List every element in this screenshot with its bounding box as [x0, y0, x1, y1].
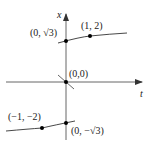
label-1-2: (1, 2) [81, 20, 103, 32]
point-origin [64, 80, 68, 84]
upper-solution-curve [58, 33, 127, 43]
label-neg1-neg2: (−1, −2) [8, 111, 41, 123]
label-origin: (0,0) [69, 68, 88, 80]
point-1-2 [88, 34, 92, 38]
t-axis-label: t [140, 88, 143, 99]
label-0-neg-sqrt3: (0, −√3) [71, 125, 104, 137]
solution-curves-diagram: x t (1, 2) (0, √3) (0,0) (−1, −2) (0, −√… [0, 0, 153, 145]
label-0-sqrt3: (0, √3) [30, 27, 57, 39]
point-neg1-neg2 [40, 126, 44, 130]
point-0-sqrt3 [64, 39, 68, 43]
point-0-neg-sqrt3 [64, 121, 68, 125]
x-axis-label: x [56, 9, 62, 20]
